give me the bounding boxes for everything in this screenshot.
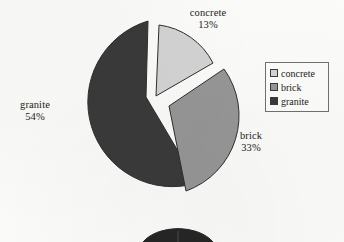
legend-swatch-concrete-icon: [270, 69, 278, 77]
legend-label-brick: brick: [281, 82, 302, 93]
slice-label-brick-value: 33%: [223, 142, 279, 154]
slice-label-concrete: concrete 13%: [170, 7, 246, 31]
legend-label-concrete: concrete: [281, 68, 315, 79]
slice-label-granite-value: 54%: [4, 111, 66, 123]
slice-label-brick-name: brick: [223, 130, 279, 142]
slice-label-concrete-value: 13%: [170, 19, 246, 31]
legend-item-concrete[interactable]: concrete: [270, 66, 324, 80]
slice-label-granite-name: granite: [4, 99, 66, 111]
legend-swatch-brick-icon: [270, 83, 278, 91]
chart-legend: concrete brick granite: [265, 62, 329, 112]
slice-label-concrete-name: concrete: [170, 7, 246, 19]
next-chart-top-arc: [143, 229, 213, 242]
legend-item-granite[interactable]: granite: [270, 94, 324, 108]
legend-swatch-granite-icon: [270, 97, 278, 105]
slice-label-granite: granite 54%: [4, 99, 66, 123]
slice-label-brick: brick 33%: [223, 130, 279, 154]
legend-item-brick[interactable]: brick: [270, 80, 324, 94]
chart-page: concrete 13% brick 33% granite 54% concr…: [0, 0, 344, 242]
legend-label-granite: granite: [281, 96, 309, 107]
